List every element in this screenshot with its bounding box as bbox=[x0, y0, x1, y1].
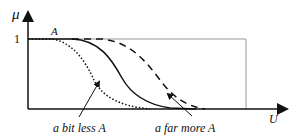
y-tick-one: 1 bbox=[14, 32, 20, 46]
arrow-less bbox=[79, 82, 99, 117]
arrow-more bbox=[168, 94, 192, 116]
fuzzy-set-label: A bbox=[50, 25, 58, 37]
curve-more-dashed bbox=[72, 39, 205, 109]
x-axis-label: U bbox=[269, 112, 279, 126]
universe-frame bbox=[28, 39, 246, 109]
annotation-more: a far more A bbox=[155, 121, 216, 135]
annotation-less: a bit less A bbox=[53, 121, 106, 135]
curve-a-solid bbox=[28, 39, 196, 109]
y-axis-label: μ bbox=[11, 6, 20, 22]
fuzzy-hedge-diagram: μ 1 A U a bit less A a far more A bbox=[0, 0, 299, 138]
